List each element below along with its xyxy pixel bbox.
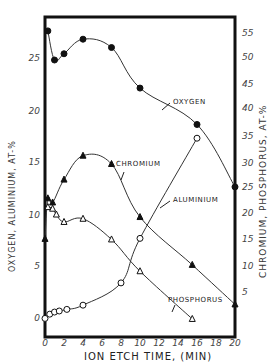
right-axis-title: CHROMIUM, PHOSPHORUS, AT-% xyxy=(258,105,268,278)
right-tick-label: 25 xyxy=(242,182,253,192)
oxygen-marker-circle-icon xyxy=(109,45,115,51)
right-tick-label: 15 xyxy=(242,234,253,244)
phosphorus-marker-circle-icon xyxy=(56,308,62,314)
right-tick-label: 55 xyxy=(242,28,253,38)
oxygen-marker-circle-icon xyxy=(194,121,200,127)
phosphorus-marker-circle-icon xyxy=(137,235,143,241)
chromium-marker-triangle-icon xyxy=(189,315,195,321)
phosphorus-marker-circle-icon xyxy=(64,306,70,312)
chart: OXYGEN CHROMIUM ALUMINIUM PHOSPHORUS 024… xyxy=(0,0,279,363)
right-tick-label: 35 xyxy=(242,131,253,141)
x-tick-label: 16 xyxy=(187,338,207,348)
right-tick-label: 40 xyxy=(242,103,253,113)
oxygen-marker-circle-icon xyxy=(80,36,86,42)
x-tick-label: 12 xyxy=(149,338,169,348)
left-tick-label: 0 xyxy=(18,313,40,323)
plot-area xyxy=(0,0,279,363)
left-tick-label: 15 xyxy=(18,157,40,167)
phosphorus-marker-circle-icon xyxy=(194,135,200,141)
series-aluminium xyxy=(42,152,238,307)
chromium-label: CHROMIUM xyxy=(116,160,161,168)
left-tick-label: 5 xyxy=(18,261,40,271)
right-tick-label: 20 xyxy=(242,208,253,218)
x-axis-title: ION ETCH TIME, (MIN) xyxy=(84,351,212,362)
phosphorus-marker-circle-icon xyxy=(80,302,86,308)
aluminium-label: ALUMINIUM xyxy=(173,196,218,204)
aluminium-marker-triangle-icon xyxy=(189,261,195,267)
left-axis-title: OXYGEN, ALUMINIUM, AT-% xyxy=(8,140,17,272)
oxygen-marker-circle-icon xyxy=(137,85,143,91)
oxygen-marker-circle-icon xyxy=(52,57,58,63)
right-tick-label: 5 xyxy=(242,287,248,297)
left-tick-label: 25 xyxy=(18,53,40,63)
oxygen-label: OXYGEN xyxy=(173,98,206,106)
x-tick-label: 10 xyxy=(130,338,150,348)
x-tick-label: 4 xyxy=(73,338,93,348)
x-tick-label: 14 xyxy=(168,338,188,348)
x-tick-label: 6 xyxy=(92,338,112,348)
phosphorus-label: PHOSPHORUS xyxy=(168,296,223,304)
phosphorus-marker-circle-icon xyxy=(118,280,124,286)
series-layer xyxy=(42,28,238,322)
x-tick-label: 20 xyxy=(225,338,245,348)
oxygen-marker-circle-icon xyxy=(45,28,51,34)
right-tick-label: 45 xyxy=(242,79,253,89)
left-tick-label: 10 xyxy=(18,210,40,220)
x-tick-label: 8 xyxy=(111,338,131,348)
right-tick-label: 30 xyxy=(242,158,253,168)
oxygen-marker-circle-icon xyxy=(232,184,238,190)
aluminium-line xyxy=(45,154,235,304)
x-tick-label: 0 xyxy=(35,338,55,348)
chromium-marker-triangle-icon xyxy=(109,236,115,242)
axes-frame xyxy=(45,17,235,337)
right-tick-label: 10 xyxy=(242,261,253,271)
oxygen-marker-circle-icon xyxy=(61,51,67,57)
x-tick-label: 18 xyxy=(206,338,226,348)
x-tick-label: 2 xyxy=(54,338,74,348)
left-tick-label: 20 xyxy=(18,106,40,116)
right-tick-label: 50 xyxy=(242,52,253,62)
aluminium-marker-triangle-icon xyxy=(42,235,48,241)
